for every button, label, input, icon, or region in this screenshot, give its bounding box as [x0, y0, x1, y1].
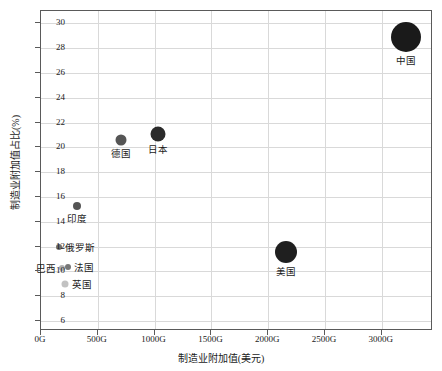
y-tick-label: 14 — [56, 216, 65, 226]
gridline-horizontal — [41, 48, 431, 49]
y-tick-mark — [35, 196, 40, 197]
y-tick-mark — [35, 270, 40, 271]
x-tick-label: 1500G — [198, 334, 223, 344]
x-tick-label: 2500G — [312, 334, 337, 344]
gridline-horizontal — [41, 296, 431, 297]
plot-area: 中国美国日本德国印度俄罗斯法国巴西英国 — [40, 10, 432, 330]
gridline-horizontal — [41, 197, 431, 198]
data-point-bubble — [391, 22, 421, 52]
data-point-bubble — [275, 241, 297, 263]
gridline-horizontal — [41, 247, 431, 248]
y-tick-label: 30 — [56, 17, 65, 27]
data-point-label: 美国 — [276, 264, 296, 278]
y-tick-mark — [35, 246, 40, 247]
x-tick-label: 1000G — [141, 334, 166, 344]
data-point-label: 巴西 — [36, 261, 56, 275]
gridline-horizontal — [41, 147, 431, 148]
y-tick-label: 8 — [61, 290, 66, 300]
gridline-vertical — [325, 11, 326, 329]
data-point-bubble — [65, 264, 71, 270]
data-point-label: 俄罗斯 — [65, 240, 95, 254]
y-tick-mark — [35, 122, 40, 123]
y-tick-label: 6 — [61, 315, 66, 325]
data-point-label: 英国 — [72, 277, 92, 291]
data-point-bubble — [115, 134, 126, 145]
y-tick-label: 12 — [56, 241, 65, 251]
y-tick-label: 10 — [56, 265, 65, 275]
y-tick-mark — [35, 171, 40, 172]
y-tick-label: 24 — [56, 92, 65, 102]
y-tick-mark — [35, 22, 40, 23]
data-point-label: 中国 — [396, 53, 416, 67]
data-point-bubble — [151, 126, 166, 141]
bubble-chart: 中国美国日本德国印度俄罗斯法国巴西英国 68101214161820222426… — [0, 0, 442, 371]
gridline-horizontal — [41, 222, 431, 223]
data-point-label: 德国 — [111, 146, 131, 160]
data-point-bubble — [73, 202, 81, 210]
y-tick-label: 22 — [56, 117, 65, 127]
y-tick-mark — [35, 320, 40, 321]
gridline-vertical — [155, 11, 156, 329]
y-tick-mark — [35, 146, 40, 147]
gridline-horizontal — [41, 98, 431, 99]
gridline-horizontal — [41, 321, 431, 322]
gridline-horizontal — [41, 172, 431, 173]
x-tick-label: 3000G — [369, 334, 394, 344]
y-axis-title: 制造业附加值占比(%) — [7, 83, 22, 243]
gridline-vertical — [382, 11, 383, 329]
y-tick-mark — [35, 72, 40, 73]
y-tick-label: 20 — [56, 141, 65, 151]
gridline-vertical — [211, 11, 212, 329]
data-point-label: 法国 — [74, 260, 94, 274]
x-axis-title: 制造业附加值(美元) — [0, 350, 442, 365]
gridline-vertical — [268, 11, 269, 329]
y-tick-mark — [35, 97, 40, 98]
y-tick-mark — [35, 295, 40, 296]
gridline-horizontal — [41, 23, 431, 24]
x-tick-label: 2000G — [255, 334, 280, 344]
gridline-horizontal — [41, 73, 431, 74]
gridline-vertical — [98, 11, 99, 329]
gridline-horizontal — [41, 271, 431, 272]
y-tick-mark — [35, 221, 40, 222]
x-tick-label: 0G — [35, 334, 46, 344]
y-tick-label: 16 — [56, 191, 65, 201]
data-point-bubble — [62, 280, 69, 287]
data-point-label: 印度 — [67, 211, 87, 225]
y-tick-label: 18 — [56, 166, 65, 176]
data-point-label: 日本 — [148, 142, 168, 156]
y-tick-mark — [35, 47, 40, 48]
y-tick-label: 28 — [56, 42, 65, 52]
x-tick-label: 500G — [87, 334, 107, 344]
y-tick-label: 26 — [56, 67, 65, 77]
gridline-horizontal — [41, 123, 431, 124]
